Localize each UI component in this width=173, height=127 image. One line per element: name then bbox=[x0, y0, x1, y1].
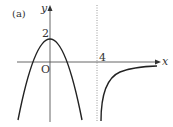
origin-label: O bbox=[41, 64, 50, 75]
hyperbola-curve bbox=[101, 66, 157, 121]
x-axis-label: x bbox=[162, 56, 168, 67]
x-axis-arrow-icon bbox=[155, 60, 161, 65]
y-axis-label: y bbox=[41, 3, 47, 14]
y-axis-arrow-icon bbox=[48, 5, 53, 11]
panel-label: (a) bbox=[12, 9, 26, 19]
asymptote-label: 4 bbox=[99, 52, 106, 63]
y-intercept-label: 2 bbox=[42, 28, 49, 39]
graph-canvas bbox=[0, 0, 173, 127]
